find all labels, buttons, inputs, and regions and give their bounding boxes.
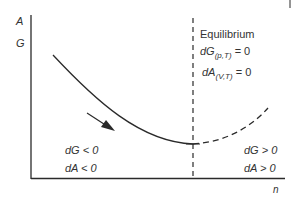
- eq-da-rhs: = 0: [236, 66, 252, 78]
- y-axis-label-g: G: [16, 37, 25, 50]
- x-axis-label-n: n: [273, 183, 279, 196]
- y-axis-label-a: A: [16, 15, 23, 28]
- right-region-da: dA > 0: [244, 162, 276, 175]
- left-region-da: dA < 0: [65, 162, 97, 175]
- equilibrium-eq-da: dA(V,T) = 0: [202, 66, 251, 83]
- free-energy-curve-solid: [53, 55, 193, 144]
- direction-arrow-icon: [101, 120, 115, 131]
- free-energy-curve-dashed: [193, 108, 268, 144]
- right-region-dg: dG > 0: [244, 144, 277, 157]
- eq-dg-rhs: = 0: [235, 45, 251, 57]
- equilibrium-title: Equilibrium: [200, 28, 254, 41]
- eq-dg-var: dG: [200, 45, 215, 57]
- equilibrium-eq-dg: dG(p,T) = 0: [200, 45, 250, 62]
- left-region-dg: dG < 0: [65, 144, 98, 157]
- eq-dg-sub: (p,T): [215, 51, 232, 60]
- eq-da-var: dA: [202, 66, 215, 78]
- eq-da-sub: (V,T): [215, 72, 232, 81]
